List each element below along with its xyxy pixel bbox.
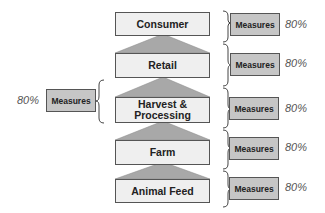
stage-label: Harvest & Processing (122, 99, 203, 121)
percent-consumer: 80% (285, 18, 307, 30)
measures-consumer: Measures (230, 13, 280, 36)
percent-harvest: 80% (285, 102, 307, 114)
percent-animal-feed: 80% (285, 181, 307, 193)
measures-farm: Measures (229, 137, 279, 160)
percent-farm: 80% (285, 141, 307, 153)
measures-animal-feed: Measures (229, 177, 279, 200)
stage-farm: Farm (115, 140, 210, 165)
percent-left: 80% (17, 94, 39, 106)
measures-left: Measures (46, 89, 96, 112)
stage-harvest-processing: Harvest & Processing (115, 97, 210, 123)
stage-label: Farm (150, 147, 176, 158)
stage-label: Retail (148, 60, 177, 71)
left-bracket (96, 80, 104, 123)
percent-retail: 80% (285, 57, 307, 69)
stage-retail: Retail (115, 53, 210, 78)
arrow-triangle (115, 34, 210, 53)
stage-label: Consumer (137, 19, 189, 30)
stage-consumer: Consumer (115, 12, 210, 36)
measures-retail: Measures (230, 53, 280, 76)
stage-label: Animal Feed (131, 186, 193, 197)
stage-animal-feed: Animal Feed (115, 179, 210, 203)
measures-harvest: Measures (229, 97, 279, 120)
arrow-triangle (115, 77, 210, 97)
arrow-triangle (115, 121, 210, 140)
